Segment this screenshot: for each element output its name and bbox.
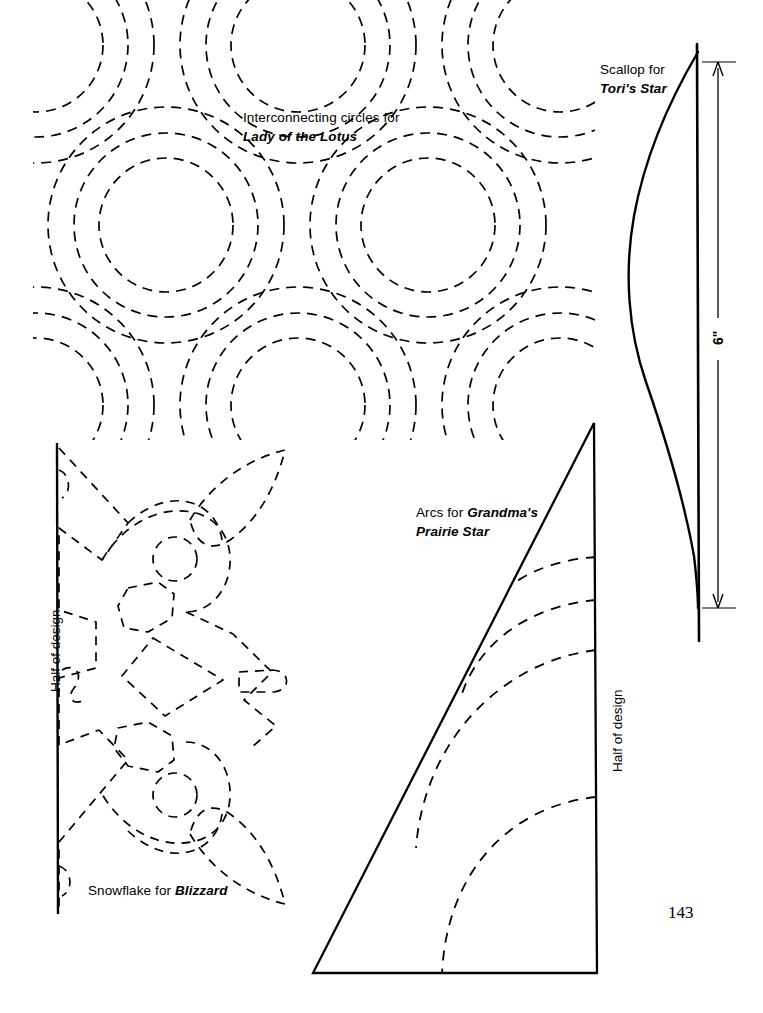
label-arcs-italic: Grandma's [467,505,538,520]
label-arcs-roman: Arcs for [416,505,467,520]
circle-group-bottom-center [180,287,416,523]
snowflake-lower-circle [153,773,197,817]
label-arcs: Arcs for Grandma's Prairie Star [416,503,538,541]
label-snowflake: Snowflake for Blizzard [88,881,228,900]
label-snowflake-italic: Blizzard [175,883,228,898]
snowflake-mid-zigzag [186,612,276,748]
prairie-arc-2 [460,600,596,700]
label-scallop-line1: Scallop for [600,60,667,79]
snowflake-center-diamond [122,638,223,716]
figure-interconnecting-circles [0,0,678,523]
label-half-of-design-left: Half of design [48,609,63,692]
pattern-artwork [0,0,763,1013]
label-dimension-6-inch: 6" [710,331,726,345]
label-lotus-line1: Interconnecting circles for [243,108,400,127]
figure-scallop-tori-star [629,44,699,641]
prairie-arc-3 [416,650,596,848]
circle-group-top-left [0,0,154,163]
prairie-arc-1 [497,557,596,600]
label-lotus-line2: Lady of the Lotus [243,127,400,146]
snowflake-upper-hexagon [118,582,174,632]
label-interconnecting-circles: Interconnecting circles for Lady of the … [243,108,400,146]
snowflake-outline-half [59,448,128,910]
label-arcs-line2: Prairie Star [416,522,538,541]
snowflake-edge-notch-top [59,470,68,498]
prairie-arc-4 [442,797,596,975]
figure-snowflake-blizzard [57,443,287,914]
label-arcs-line1: Arcs for Grandma's [416,503,538,522]
snowflake-edge-notch-mid [62,668,84,702]
snowflake-upper-leaf [190,450,285,546]
circle-group-bottom-left [0,287,154,523]
snowflake-upper-large-arc [102,511,230,612]
snowflake-upper-circle [153,537,197,581]
page-number: 143 [668,903,694,923]
snowflake-edge-notch-bottom [59,866,70,896]
scallop-curve [629,52,698,608]
label-scallop: Scallop for Tori's Star [600,60,667,98]
label-half-of-design-right: Half of design [610,689,625,772]
pattern-page: Interconnecting circles for Lady of the … [0,0,763,1013]
label-scallop-line2: Tori's Star [600,79,667,98]
label-snowflake-roman: Snowflake for [88,883,175,898]
scallop-straight-edge [697,44,699,641]
snowflake-lower-hexagon [114,722,174,772]
